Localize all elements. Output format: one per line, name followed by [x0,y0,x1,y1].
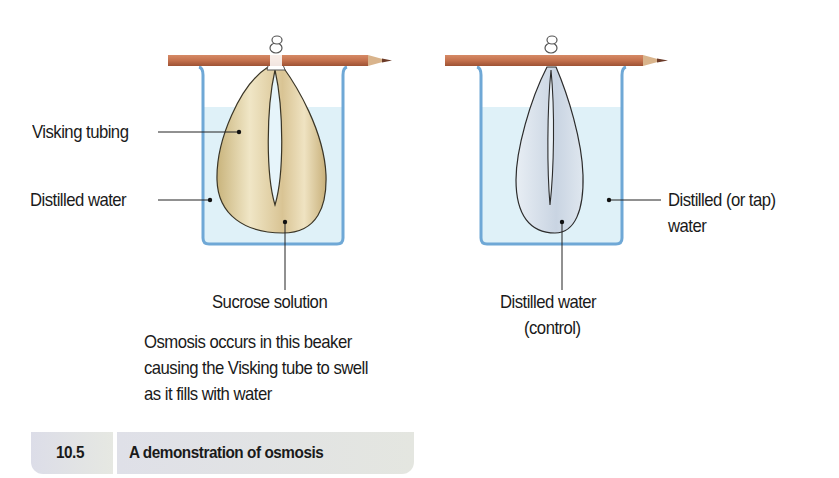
label-sucrose-solution: Sucrose solution [212,290,327,314]
label-control-water-line1: Distilled water [500,290,596,314]
label-distilled-water-left: Distilled water [30,188,126,212]
figure-title: A demonstration of osmosis [117,432,414,474]
right-pencil [445,36,668,66]
label-control-water-line2: (control) [524,316,581,340]
note-line-1: Osmosis occurs in this beaker [144,330,352,354]
right-beaker [477,67,626,244]
label-distilled-tap-water-line2: water [668,214,706,238]
left-beaker [199,62,347,244]
label-visking-tubing: Visking tubing [32,120,128,144]
osmosis-diagram [0,0,839,478]
left-pencil [168,36,392,66]
note-line-3: as it fills with water [144,382,272,406]
figure-number-text: 10.5 [56,443,84,463]
note-line-2: causing the Visking tube to swell [144,356,368,380]
label-distilled-tap-water-line1: Distilled (or tap) [668,188,776,212]
figure-number: 10.5 [31,432,113,474]
figure-title-text: A demonstration of osmosis [129,443,323,463]
